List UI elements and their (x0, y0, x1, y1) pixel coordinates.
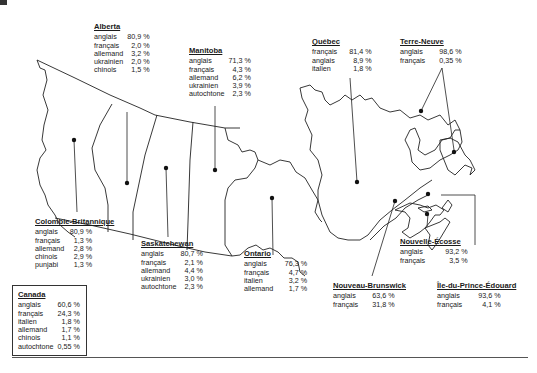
region-title: Ontario (244, 250, 307, 258)
lang: autochtone (141, 283, 181, 291)
region-alberta: Alberta anglais80,9 % français2,0 % alle… (94, 23, 150, 75)
newfoundland (440, 138, 475, 175)
st-lawrence-south (370, 195, 428, 240)
region-quebec: Québec français81,4 % anglais8,9 % itali… (312, 38, 372, 73)
border-ab-sk (133, 115, 157, 240)
pct: 31,8 % (372, 301, 394, 309)
pct: 0,55 % (58, 343, 80, 351)
lang: autochtone (18, 343, 58, 351)
bottom-rule (12, 357, 528, 358)
region-nouveau-brunswick: Nouveau-Brunswick anglais63,6 % français… (333, 282, 406, 309)
region-saskatchewan: Saskatchewan anglais80,7 % français2,1 %… (141, 240, 203, 292)
lang: français (437, 301, 478, 309)
lang: autochtone (189, 90, 229, 98)
map-outline-west (37, 60, 75, 237)
region-ontario: Ontario anglais76,3 % français4,7 % ital… (244, 250, 307, 293)
lang: français (333, 301, 372, 309)
quebec-west-coast (300, 88, 322, 200)
border-on-qc (318, 200, 368, 240)
lang: français (400, 57, 439, 65)
language-table: français81,4 % anglais8,9 % italien1,8 % (312, 48, 372, 73)
region-title: Manitoba (189, 47, 251, 55)
region-nouvelle-ecosse: Nouvelle-Écosse anglais93,2 % français3,… (400, 238, 468, 265)
region-ile-du-prince-edouard: Île-du-Prince-Édouard anglais93,6 % fran… (437, 282, 516, 309)
hudson-coast (258, 160, 322, 222)
pct: 2,3 % (181, 283, 203, 291)
language-table: anglais80,9 % français2,0 % allemand3,2 … (94, 33, 150, 74)
region-title: Saskatchewan (141, 240, 203, 248)
region-title: Terre-Neuve (400, 38, 462, 46)
region-title: Colombie-Britannique (35, 218, 114, 226)
pct: 2,3 % (229, 90, 251, 98)
region-manitoba: Manitoba anglais71,3 % français4,3 % all… (189, 47, 251, 99)
language-table: anglais93,6 % français4,1 % (437, 292, 501, 309)
language-table: anglais93,2 % français3,5 % (400, 248, 468, 265)
region-colombie-britannique: Colombie-Britannique anglais80,9 % franç… (35, 218, 114, 270)
national-title: Canada (18, 291, 80, 299)
pct: 4,1 % (478, 301, 500, 309)
language-table: anglais80,7 % français2,1 % allemand4,4 … (141, 250, 203, 291)
pct: 1,8 % (349, 65, 371, 73)
language-table: anglais76,3 % français4,7 % italien3,2 %… (244, 260, 307, 293)
region-title: Nouveau-Brunswick (333, 282, 406, 290)
pct: 1,7 % (285, 285, 307, 293)
language-table: anglais98,6 % français0,35 % (400, 48, 462, 65)
region-title: Nouvelle-Écosse (400, 238, 468, 246)
border-sk-mb (187, 122, 193, 250)
lang: italien (312, 65, 349, 73)
national-summary-box: Canada anglais60,6 % français24,3 % ital… (12, 285, 87, 356)
language-table: anglais80,9 % français1,3 % allemand2,8 … (35, 228, 92, 269)
border-bc-alberta (92, 104, 112, 232)
lang: punjabi (35, 261, 70, 269)
pct: 0,35 % (439, 57, 461, 65)
region-title: Île-du-Prince-Édouard (437, 282, 516, 290)
region-title: Québec (312, 38, 372, 46)
pct: 1,5 % (127, 66, 149, 74)
pct: 3,5 % (445, 257, 467, 265)
language-table: anglais63,6 % français31,8 % (333, 292, 395, 309)
quebec-north (300, 85, 460, 130)
border-mb-on (225, 128, 258, 256)
lang: allemand (244, 285, 285, 293)
language-table: anglais71,3 % français4,3 % allemand6,2 … (189, 57, 251, 98)
maritimes (395, 203, 444, 238)
region-terre-neuve: Terre-Neuve anglais98,6 % français0,35 % (400, 38, 462, 65)
region-title: Alberta (94, 23, 150, 31)
pct: 1,3 % (70, 261, 92, 269)
lang: chinois (94, 66, 127, 74)
lang: français (400, 257, 445, 265)
language-table: anglais60,6 % français24,3 % italien1,8 … (18, 301, 80, 351)
